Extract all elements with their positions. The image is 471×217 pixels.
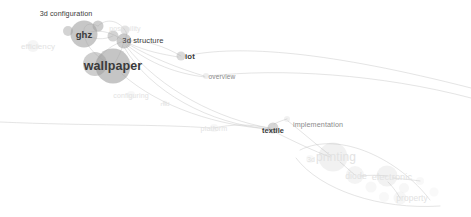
- graph-node[interactable]: [83, 52, 107, 76]
- graph-node[interactable]: [346, 166, 364, 184]
- graph-node[interactable]: [319, 143, 348, 172]
- graph-node[interactable]: [366, 182, 377, 193]
- graph-node[interactable]: [379, 192, 389, 202]
- graph-edge: [0, 122, 210, 128]
- graph-node[interactable]: [268, 123, 279, 134]
- graph-node[interactable]: [306, 155, 314, 163]
- graph-edge: [185, 51, 471, 88]
- graph-node[interactable]: [416, 177, 424, 185]
- graph-node[interactable]: [163, 101, 168, 106]
- edge-group: [0, 21, 471, 206]
- graph-node[interactable]: [27, 40, 39, 52]
- graph-edge: [124, 47, 269, 129]
- graph-node[interactable]: [177, 52, 186, 61]
- graph-edge: [122, 74, 270, 129]
- graph-node[interactable]: [127, 91, 135, 99]
- node-group: [27, 21, 439, 205]
- graph-node[interactable]: [203, 73, 209, 79]
- graph-node[interactable]: [430, 188, 439, 197]
- graph-node[interactable]: [399, 183, 409, 193]
- graph-edges-layer: [0, 0, 471, 217]
- network-graph-canvas: 3d configurationghzpossibility3d structu…: [0, 0, 471, 217]
- graph-node[interactable]: [284, 116, 290, 122]
- graph-node[interactable]: [121, 26, 130, 35]
- graph-node[interactable]: [63, 26, 73, 36]
- graph-node[interactable]: [377, 166, 398, 187]
- graph-edge: [128, 43, 178, 57]
- graph-node[interactable]: [117, 34, 132, 49]
- graph-edge: [128, 44, 204, 76]
- graph-edge: [209, 73, 471, 98]
- graph-edge: [214, 125, 268, 128]
- graph-edge: [126, 46, 270, 128]
- graph-node[interactable]: [210, 124, 218, 132]
- graph-node[interactable]: [394, 192, 407, 205]
- graph-node[interactable]: [71, 21, 98, 48]
